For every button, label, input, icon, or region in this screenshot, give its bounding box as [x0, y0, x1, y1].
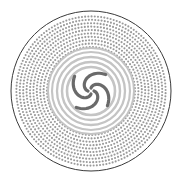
spiral-figure [0, 0, 181, 184]
spiral-disc-graphic [0, 0, 181, 184]
